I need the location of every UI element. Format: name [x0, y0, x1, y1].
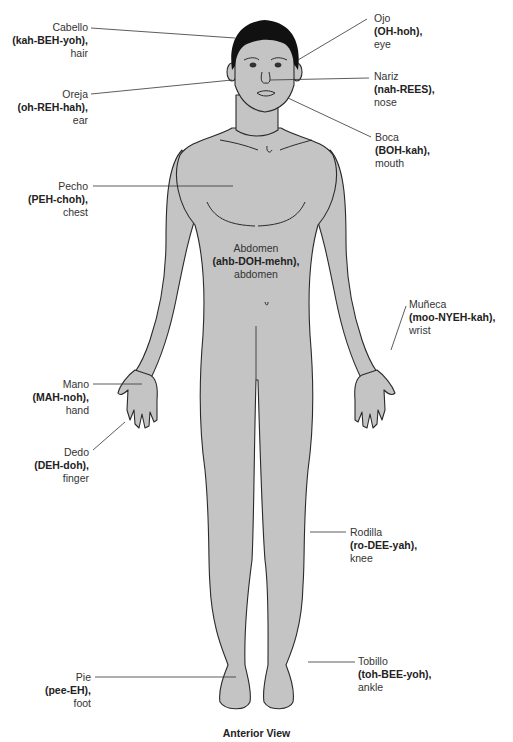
- label-oreja: Oreja (oh-REH-hah), ear: [17, 88, 88, 127]
- label-cabello: Cabello (kah-BEH-yoh), hair: [12, 21, 88, 60]
- label-mano: Mano (MAH-noh), hand: [32, 378, 89, 417]
- left-hand: [118, 370, 157, 428]
- figure-caption: Anterior View: [0, 727, 513, 739]
- label-pie: Pie (pee-EH), foot: [45, 671, 91, 710]
- label-rodilla: Rodilla (ro-DEE-yah), knee: [350, 526, 417, 565]
- torso-legs: [176, 128, 336, 709]
- label-dedo: Dedo (DEH-doh), finger: [34, 446, 89, 485]
- label-abdomen: Abdomen (ahb-DOH-mehn), abdomen: [206, 242, 306, 281]
- label-ojo: Ojo (OH-hoh), eye: [374, 12, 422, 51]
- label-muneca: Muñeca (moo-NYEH-kah), wrist: [409, 298, 495, 337]
- label-pecho: Pecho (PEH-choh), chest: [28, 180, 88, 219]
- right-hand: [355, 370, 395, 428]
- label-boca: Boca (BOH-kah), mouth: [375, 131, 430, 170]
- label-tobillo: Tobillo (toh-BEE-yoh), ankle: [358, 655, 432, 694]
- label-nariz: Nariz (nah-REES), nose: [374, 70, 435, 109]
